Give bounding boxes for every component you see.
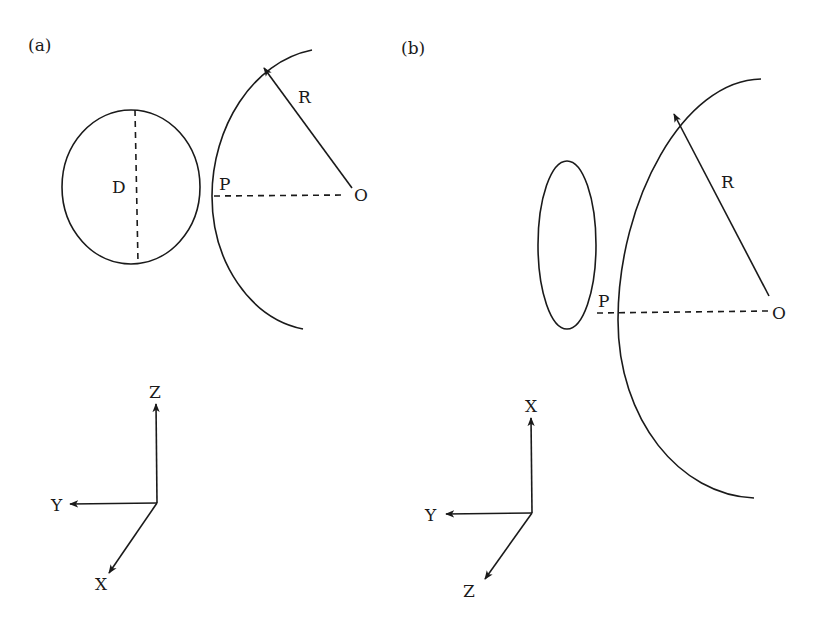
axis-down-left-arrow	[109, 503, 157, 573]
axis-down-left-label: Z	[463, 581, 475, 601]
center-label: O	[354, 185, 368, 205]
curved-surface-arc	[618, 79, 761, 498]
contact-point-label: P	[598, 291, 609, 311]
flattened-ellipse	[538, 161, 596, 329]
radius-label: R	[298, 87, 312, 107]
axis-down-left-label: X	[95, 574, 108, 594]
figure: (a) D R P O Z Y X (b) R P O	[0, 0, 819, 630]
radius-label: R	[721, 172, 735, 192]
panel-a-label: (a)	[28, 35, 51, 55]
panel-b: (b) R P O X Y Z	[401, 38, 786, 601]
axis-up-label: Z	[149, 382, 161, 402]
axis-left-arrow	[446, 513, 532, 514]
axis-left-label: Y	[424, 505, 437, 525]
axis-left-arrow	[70, 503, 157, 504]
axis-up-arrow	[156, 404, 157, 503]
sphere-circle	[62, 110, 200, 264]
panel-b-label: (b)	[401, 38, 425, 58]
axes-b: X Y Z	[424, 396, 538, 601]
axes-a: Z Y X	[50, 382, 161, 594]
axis-down-left-arrow	[485, 513, 532, 579]
diameter-label: D	[112, 177, 126, 197]
contact-dashed-line	[597, 311, 768, 313]
radius-arrow	[674, 114, 769, 296]
radius-arrow	[264, 68, 352, 188]
axis-up-arrow	[531, 418, 532, 513]
diameter-line	[135, 110, 138, 263]
axis-left-label: Y	[50, 495, 63, 515]
contact-dashed-line	[214, 195, 345, 196]
panel-a: (a) D R P O Z Y X	[28, 35, 368, 594]
center-label: O	[772, 303, 786, 323]
axis-up-label: X	[525, 396, 538, 416]
contact-point-label: P	[219, 174, 230, 194]
